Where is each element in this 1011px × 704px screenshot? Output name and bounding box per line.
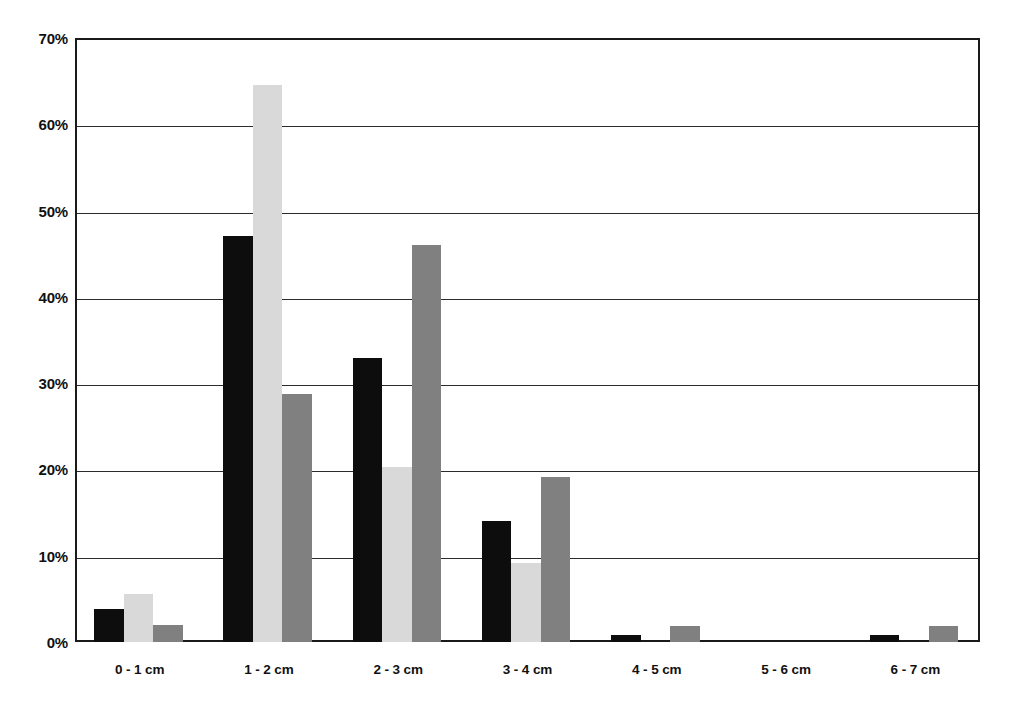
bar — [482, 521, 512, 642]
bar — [382, 467, 412, 642]
bar-group — [592, 38, 721, 642]
y-axis-tick-labels: 0%10%20%30%40%50%60%70% — [0, 0, 68, 704]
bar — [353, 358, 383, 642]
x-tick-label: 2 - 3 cm — [334, 662, 463, 677]
x-tick-label: 6 - 7 cm — [851, 662, 980, 677]
bar — [253, 85, 283, 642]
bars-layer — [75, 38, 980, 642]
y-tick-label-30: 30% — [0, 375, 68, 392]
bar — [611, 635, 641, 642]
bar — [94, 609, 124, 642]
bar-group — [851, 38, 980, 642]
y-tick-label-10: 10% — [0, 547, 68, 564]
bar-group — [75, 38, 204, 642]
bar — [929, 626, 959, 642]
x-tick-label: 1 - 2 cm — [204, 662, 333, 677]
x-tick-label: 0 - 1 cm — [75, 662, 204, 677]
bar-group — [204, 38, 333, 642]
y-tick-label-0: 0% — [0, 634, 68, 651]
bar — [541, 477, 571, 642]
bar — [282, 394, 312, 642]
y-tick-label-50: 50% — [0, 202, 68, 219]
bar — [412, 245, 442, 642]
bar — [511, 563, 541, 642]
bar — [870, 635, 900, 642]
y-tick-label-60: 60% — [0, 116, 68, 133]
x-tick-label: 4 - 5 cm — [592, 662, 721, 677]
bar-group — [334, 38, 463, 642]
bar — [124, 594, 154, 642]
x-tick-label: 5 - 6 cm — [721, 662, 850, 677]
x-axis-category-labels: 0 - 1 cm1 - 2 cm2 - 3 cm3 - 4 cm4 - 5 cm… — [75, 648, 980, 688]
bar — [223, 236, 253, 642]
y-tick-label-40: 40% — [0, 288, 68, 305]
bar-group — [721, 38, 850, 642]
bar-chart: 0%10%20%30%40%50%60%70% 0 - 1 cm1 - 2 cm… — [0, 0, 1011, 704]
y-tick-label-20: 20% — [0, 461, 68, 478]
bar — [153, 625, 183, 642]
bar-group — [463, 38, 592, 642]
bar — [670, 626, 700, 642]
y-tick-label-70: 70% — [0, 30, 68, 47]
x-tick-label: 3 - 4 cm — [463, 662, 592, 677]
